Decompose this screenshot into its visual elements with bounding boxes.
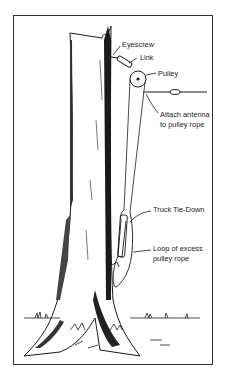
tree-trunk	[24, 26, 140, 356]
label-attach-antenna-2: to pulley rope	[160, 120, 204, 129]
tie-down-and-loop	[112, 210, 133, 287]
tree-pulley-illustration	[0, 0, 226, 378]
label-loop-excess-2: pulley rope	[153, 254, 189, 263]
pulley	[130, 71, 146, 87]
label-link: Link	[140, 53, 154, 62]
label-eyescrew: Eyescrew	[122, 40, 154, 49]
eyescrew-link	[111, 55, 133, 68]
label-pulley: Pulley	[158, 69, 178, 78]
label-loop-excess-1: Loop of excess	[153, 244, 203, 253]
antenna-wire	[143, 90, 207, 95]
pulley-rope	[124, 80, 145, 212]
label-attach-antenna-1: Attach antenna	[160, 110, 210, 119]
label-truck-tie-down: Truck Tie-Down	[153, 205, 204, 214]
